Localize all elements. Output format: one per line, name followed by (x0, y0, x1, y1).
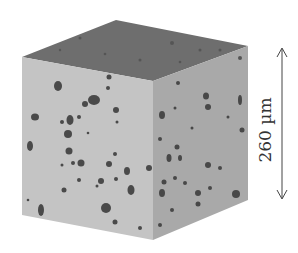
cube (22, 20, 248, 240)
scale-bar (277, 48, 287, 199)
scale-bar-label: 260 µm (255, 97, 275, 162)
porous-cube-figure (0, 0, 298, 253)
